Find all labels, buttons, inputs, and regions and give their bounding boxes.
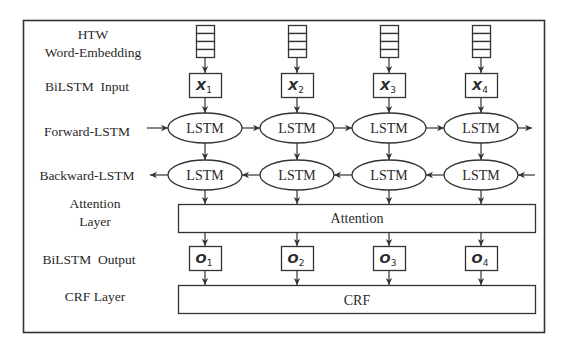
embedding-cell [289,34,307,42]
label-backward-lstm: Backward-LSTM [39,168,134,183]
word-embedding-vector [381,26,399,58]
embedding-cell [473,34,491,42]
bilstm-output-node: O3 [374,247,406,271]
embedding-cell [289,26,307,34]
backward-lstm-label: LSTM [186,168,224,183]
forward-lstm-cell: LSTM [352,113,426,143]
embedding-cell [381,50,399,58]
bilstm-output-node: O1 [190,247,222,271]
backward-lstm-cell: LSTM [168,160,242,190]
embedding-cell [381,42,399,50]
columns: X1LSTMLSTMO1X2LSTMLSTMO2X3LSTMLSTMO3X4LS… [168,26,518,271]
embedding-cell [289,42,307,50]
forward-lstm-label: LSTM [462,121,500,136]
label-crf-layer: CRF Layer [65,289,126,304]
label-layer: Layer [79,214,111,229]
backward-lstm-cell: LSTM [444,160,518,190]
bilstm-input-node: X4 [466,74,498,98]
backward-lstm-cell: LSTM [260,160,334,190]
forward-lstm-label: LSTM [370,121,408,136]
forward-lstm-label: LSTM [186,121,224,136]
word-embedding-vector [197,26,215,58]
embedding-cell [473,26,491,34]
bilstm-output-node: O2 [282,247,314,271]
word-embedding-vector [473,26,491,58]
label-forward-lstm: Forward-LSTM [44,124,130,139]
crf-label: CRF [344,293,371,308]
embedding-cell [473,42,491,50]
label-bilstm-output: BiLSTM Output [42,252,135,267]
backward-lstm-label: LSTM [370,168,408,183]
backward-lstm-label: LSTM [462,168,500,183]
embedding-cell [473,50,491,58]
bilstm-attention-crf-diagram: HTW Word-Embedding BiLSTM Input Forward-… [0,0,567,350]
label-word-embedding: Word-Embedding [45,45,142,60]
word-embedding-vector [289,26,307,58]
embedding-cell [197,34,215,42]
embedding-cell [381,26,399,34]
label-attention: Attention [70,196,121,211]
bilstm-input-node: X3 [374,74,406,98]
embedding-cell [197,26,215,34]
attention-label: Attention [331,211,384,226]
forward-lstm-cell: LSTM [168,113,242,143]
embedding-cell [381,34,399,42]
bilstm-input-node: X1 [190,74,222,98]
forward-lstm-cell: LSTM [260,113,334,143]
bilstm-output-node: O4 [466,247,498,271]
backward-lstm-cell: LSTM [352,160,426,190]
label-htw: HTW [78,27,109,42]
embedding-cell [197,42,215,50]
backward-lstm-label: LSTM [278,168,316,183]
embedding-cell [197,50,215,58]
embedding-cell [289,50,307,58]
forward-lstm-label: LSTM [278,121,316,136]
bilstm-input-node: X2 [282,74,314,98]
forward-lstm-cell: LSTM [444,113,518,143]
label-bilstm-input: BiLSTM Input [45,79,129,94]
